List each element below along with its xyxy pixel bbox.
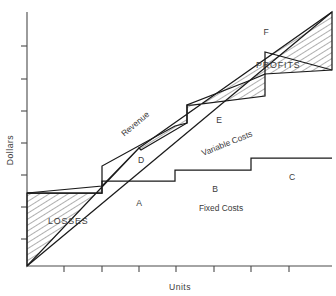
y-axis-title: Dollars (5, 135, 15, 165)
point-label-f: F (263, 27, 268, 37)
chart-canvas: Dollars Units Revenue Variable Costs Fix… (0, 0, 336, 296)
revenue-label: Revenue (119, 109, 151, 138)
x-axis-title: Units (169, 282, 191, 292)
point-label-e: E (216, 115, 222, 125)
fixed-costs-label: Fixed Costs (199, 203, 243, 213)
losses-region (27, 148, 139, 266)
point-label-a: A (136, 198, 142, 208)
point-label-b: B (212, 184, 218, 194)
losses-label: LOSSES (48, 216, 89, 226)
break-even-chart: Dollars Units Revenue Variable Costs Fix… (0, 0, 336, 296)
x-axis-ticks (64, 266, 289, 272)
profits-label: PROFITS (256, 60, 300, 70)
point-label-d: D (138, 155, 144, 165)
fixed-costs-line (27, 158, 332, 193)
y-axis-ticks (21, 46, 27, 239)
revenue-line (27, 12, 332, 266)
variable-costs-label: Variable Costs (200, 128, 254, 157)
point-label-c: C (289, 172, 295, 182)
